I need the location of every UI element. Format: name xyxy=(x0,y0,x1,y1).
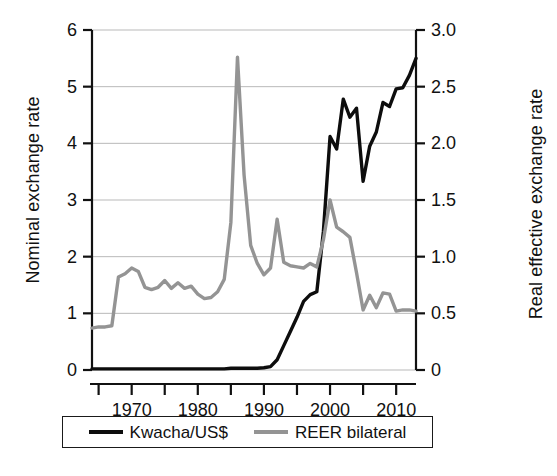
data-series-group xyxy=(92,57,416,369)
axis-lines-group xyxy=(90,30,416,384)
right-axis-tick-label: 0 xyxy=(431,361,471,379)
right-axis-tick-label: 2.5 xyxy=(431,78,471,96)
legend-label-kwacha: Kwacha/US$ xyxy=(130,424,228,441)
legend-label-reer: REER bilateral xyxy=(295,424,407,441)
legend-entry-reer: REER bilateral xyxy=(254,424,407,441)
series-line-reer-bilateral xyxy=(92,57,416,328)
exchange-rate-chart-figure: Nominal exchange rate Real effective exc… xyxy=(0,0,557,476)
right-axis-tick-label: 0.5 xyxy=(431,304,471,322)
gray-line-swatch xyxy=(254,430,288,434)
right-axis-tick-label: 1.0 xyxy=(431,248,471,266)
left-axis-tick-label: 4 xyxy=(43,134,77,152)
left-axis-tick-label: 0 xyxy=(43,361,77,379)
gridlines-group xyxy=(92,30,416,370)
right-axis-tick-label: 1.5 xyxy=(431,191,471,209)
left-axis-tick-label: 3 xyxy=(43,191,77,209)
black-line-swatch xyxy=(89,430,123,434)
right-axis-tick-label: 2.0 xyxy=(431,134,471,152)
left-axis-tick-label: 6 xyxy=(43,21,77,39)
tickmarks-group xyxy=(83,30,425,395)
left-axis-tick-label: 5 xyxy=(43,78,77,96)
legend-entry-kwacha: Kwacha/US$ xyxy=(89,424,228,441)
series-line-kwacha-us xyxy=(92,58,416,369)
left-axis-tick-label: 1 xyxy=(43,304,77,322)
right-axis-tick-label: 3.0 xyxy=(431,21,471,39)
chart-legend: Kwacha/US$ REER bilateral xyxy=(62,416,433,448)
left-axis-tick-label: 2 xyxy=(43,248,77,266)
